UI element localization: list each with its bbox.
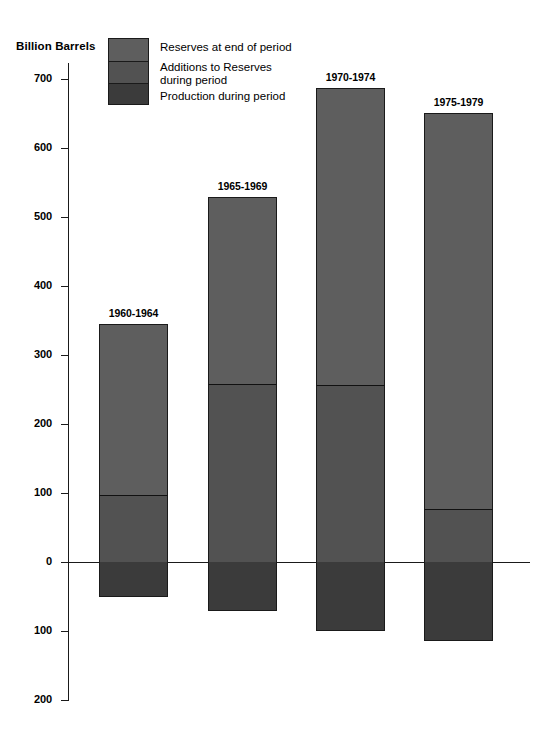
bar-label-1970-1974: 1970-1974 bbox=[291, 71, 411, 83]
bar-label-1960-1964: 1960-1964 bbox=[74, 307, 194, 319]
y-tick-label: 400 bbox=[8, 279, 52, 291]
bar-label-1975-1979: 1975-1979 bbox=[399, 96, 519, 108]
y-tick-label: 100 bbox=[8, 486, 52, 498]
bar-segment-production bbox=[316, 562, 385, 631]
y-tick-label: 600 bbox=[8, 141, 52, 153]
bar-segment-reserves bbox=[316, 88, 385, 385]
bar-segment-production bbox=[424, 562, 493, 641]
y-tick-label: 700 bbox=[8, 72, 52, 84]
bar-segment-reserves bbox=[208, 197, 277, 384]
y-tick-mark bbox=[61, 286, 68, 287]
bar-segment-production bbox=[99, 562, 168, 597]
y-tick-mark bbox=[61, 79, 68, 80]
y-tick-label: 300 bbox=[8, 348, 52, 360]
plot-area: 7006005004003002001000100200 1960-196419… bbox=[0, 0, 535, 730]
y-tick-label: 200 bbox=[8, 417, 52, 429]
y-tick-label: 200 bbox=[8, 693, 52, 705]
y-tick-mark bbox=[61, 148, 68, 149]
y-tick-mark bbox=[61, 631, 68, 632]
y-tick-mark bbox=[61, 355, 68, 356]
y-tick-mark bbox=[61, 562, 68, 563]
y-tick-label: 0 bbox=[8, 555, 52, 567]
chart-root: Billion Barrels Reserves at end of perio… bbox=[0, 0, 535, 730]
y-tick-mark bbox=[61, 700, 68, 701]
y-tick-label: 100 bbox=[8, 624, 52, 636]
bar-segment-additions bbox=[99, 495, 168, 562]
bar-segment-reserves bbox=[99, 324, 168, 495]
y-tick-mark bbox=[61, 493, 68, 494]
y-tick-label: 500 bbox=[8, 210, 52, 222]
y-tick-mark bbox=[61, 217, 68, 218]
bar-segment-additions bbox=[208, 384, 277, 562]
y-axis-line bbox=[68, 63, 69, 701]
bar-segment-additions bbox=[424, 509, 493, 562]
bar-segment-production bbox=[208, 562, 277, 611]
y-tick-mark bbox=[61, 424, 68, 425]
bar-segment-additions bbox=[316, 385, 385, 562]
bar-label-1965-1969: 1965-1969 bbox=[183, 180, 303, 192]
bar-segment-reserves bbox=[424, 113, 493, 509]
